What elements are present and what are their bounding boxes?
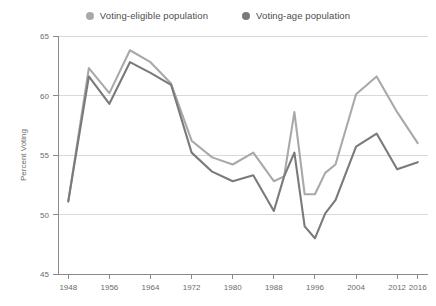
x-tick-label: 1972 <box>183 283 201 292</box>
chart-container: Voting-eligible population Voting-age po… <box>0 0 436 306</box>
x-tick-label: 1956 <box>100 283 118 292</box>
y-axis-tick-labels: 4550556065 <box>40 32 49 279</box>
x-tick-label: 1980 <box>224 283 242 292</box>
x-tick-label: 1996 <box>306 283 324 292</box>
y-tick-label: 55 <box>40 151 49 160</box>
gridlines <box>58 36 428 274</box>
line-chart-plot: 4550556065 19481956196419721980198819962… <box>0 0 436 306</box>
x-tick-label: 2012 <box>388 283 406 292</box>
y-tick-label: 45 <box>40 270 49 279</box>
y-tick-label: 60 <box>40 92 49 101</box>
y-tick-label: 50 <box>40 211 49 220</box>
y-tick-label: 65 <box>40 32 49 41</box>
series-line-voting-age <box>68 62 417 238</box>
x-tick-label: 1964 <box>142 283 160 292</box>
x-axis-ticks <box>68 274 417 279</box>
y-axis-title: Percent Voting <box>19 129 28 181</box>
x-tick-label: 1948 <box>59 283 77 292</box>
x-axis-tick-labels: 1948195619641972198019881996200420122016 <box>59 283 427 292</box>
data-series-lines <box>68 50 417 238</box>
y-axis-ticks <box>53 36 58 274</box>
y-axis-title-text: Percent Voting <box>19 129 28 181</box>
x-tick-label: 2016 <box>409 283 427 292</box>
x-tick-label: 1988 <box>265 283 283 292</box>
x-tick-label: 2004 <box>347 283 365 292</box>
